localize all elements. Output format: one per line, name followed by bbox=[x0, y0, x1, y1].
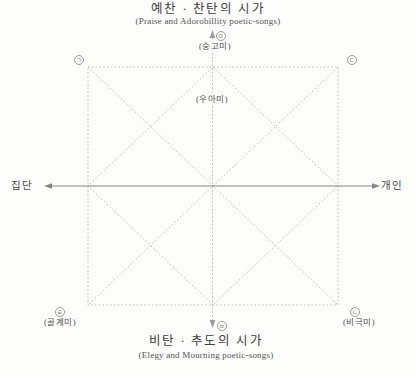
horizontal-axis-arrow-right bbox=[372, 183, 380, 189]
top-title-english: (Praise and Adorobillity poetic-songs) bbox=[136, 17, 281, 26]
circled-marker-bottom-center: ㅂ bbox=[217, 321, 227, 331]
circled-marker-top-center: ㅁ bbox=[216, 31, 226, 41]
circled-marker-top-left: ㄱ bbox=[74, 55, 84, 65]
axis-label-individual: 개인 bbox=[381, 181, 404, 192]
scanned-diagram-page: 예찬 · 찬탄의 시가 (Praise and Adorobillity poe… bbox=[0, 0, 416, 378]
circled-marker-top-right: ㄷ bbox=[347, 55, 357, 65]
vertical-axis-arrow-up bbox=[210, 30, 216, 38]
top-title-korean: 예찬 · 찬탄의 시가 bbox=[151, 3, 265, 16]
bottom-title-english: (Elegy and Mourning poetic-songs) bbox=[139, 351, 274, 360]
circled-marker-bottom-right: ㄴ bbox=[350, 307, 360, 317]
category-label-sublime: (숭고미) bbox=[198, 42, 232, 51]
category-label-grace: (우아미) bbox=[195, 95, 229, 104]
bottom-title-korean: 비탄 · 추도의 시가 bbox=[149, 335, 263, 348]
axis-label-group: 집단 bbox=[11, 181, 34, 192]
category-label-tragic: (비극미) bbox=[342, 318, 376, 327]
circled-marker-bottom-left: ㄹ bbox=[55, 307, 65, 317]
vertical-axis-arrow-down bbox=[210, 320, 216, 328]
category-label-comic: (골계미) bbox=[43, 318, 77, 327]
horizontal-axis-arrow-left bbox=[44, 183, 52, 189]
